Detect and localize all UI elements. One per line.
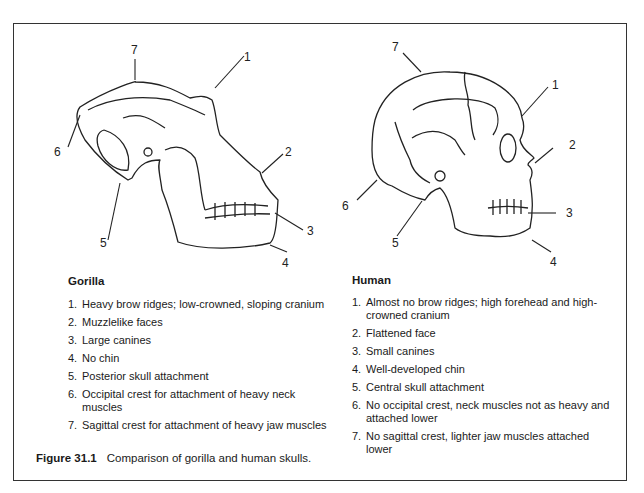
human-callout-2: 2 bbox=[569, 138, 576, 152]
gorilla-callout-5: 5 bbox=[100, 236, 107, 250]
gorilla-trait-item: 6.Occipital crest for attachment of heav… bbox=[68, 388, 338, 414]
human-trait-list: 1.Almost no brow ridges; high forehead a… bbox=[352, 296, 617, 461]
human-trait-item: 6.No occipital crest, neck muscles not a… bbox=[352, 399, 617, 425]
human-callout-6: 6 bbox=[342, 199, 349, 213]
gorilla-heading: Gorilla bbox=[68, 275, 104, 287]
human-callout-1: 1 bbox=[552, 78, 559, 92]
gorilla-callout-6: 6 bbox=[54, 145, 61, 159]
human-trait-item: 4.Well-developed chin bbox=[352, 363, 617, 376]
human-trait-item: 1.Almost no brow ridges; high forehead a… bbox=[352, 296, 617, 322]
gorilla-trait-item: 2.Muzzlelike faces bbox=[68, 316, 338, 329]
human-trait-item: 2.Flattened face bbox=[352, 327, 617, 340]
human-trait-item: 5.Central skull attachment bbox=[352, 381, 617, 394]
gorilla-trait-item: 1.Heavy brow ridges; low-crowned, slopin… bbox=[68, 298, 338, 311]
figure-caption: Figure 31.1Comparison of gorilla and hum… bbox=[36, 452, 311, 464]
figure-number: Figure 31.1 bbox=[36, 452, 97, 464]
gorilla-trait-list: 1.Heavy brow ridges; low-crowned, slopin… bbox=[68, 298, 338, 437]
gorilla-callout-1: 1 bbox=[244, 50, 251, 64]
gorilla-callout-4: 4 bbox=[282, 256, 289, 270]
human-callout-4: 4 bbox=[550, 255, 557, 269]
gorilla-callout-7: 7 bbox=[131, 43, 138, 57]
gorilla-callout-2: 2 bbox=[285, 145, 292, 159]
gorilla-trait-item: 4.No chin bbox=[68, 352, 338, 365]
human-callout-5: 5 bbox=[392, 236, 399, 250]
gorilla-trait-item: 5.Posterior skull attachment bbox=[68, 370, 338, 383]
figure-caption-text: Comparison of gorilla and human skulls. bbox=[107, 452, 312, 464]
human-trait-item: 7.No sagittal crest, lighter jaw muscles… bbox=[352, 430, 617, 456]
human-callout-3: 3 bbox=[566, 206, 573, 220]
human-trait-item: 3.Small canines bbox=[352, 345, 617, 358]
gorilla-trait-item: 3.Large canines bbox=[68, 334, 338, 347]
gorilla-callout-3: 3 bbox=[307, 224, 314, 238]
human-heading: Human bbox=[352, 274, 391, 286]
human-skull-drawing bbox=[372, 72, 534, 237]
human-callout-7: 7 bbox=[392, 40, 399, 54]
gorilla-trait-item: 7.Sagittal crest for attachment of heavy… bbox=[68, 419, 338, 432]
gorilla-skull-drawing bbox=[77, 82, 278, 248]
